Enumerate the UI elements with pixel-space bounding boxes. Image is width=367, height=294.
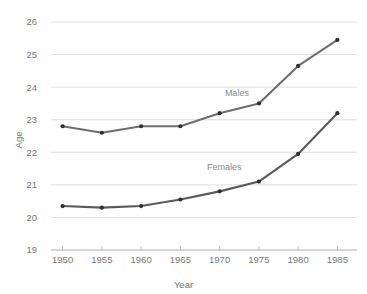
series-lines-group — [63, 40, 338, 208]
data-point-males-1950 — [61, 124, 65, 128]
series-line-males — [63, 40, 338, 133]
data-point-males-1970 — [218, 111, 222, 115]
series-annotation-females: Females — [207, 162, 242, 172]
data-point-males-1955 — [100, 131, 104, 135]
series-annotations-group: MalesFemales — [207, 88, 249, 171]
data-point-females-1975 — [257, 180, 261, 184]
series-annotation-males: Males — [225, 88, 250, 98]
line-chart: 1920212223242526 19501955196019651970197… — [0, 0, 367, 294]
y-tick-label: 25 — [26, 49, 37, 60]
data-point-females-1960 — [139, 204, 143, 208]
y-tick-labels-group: 1920212223242526 — [26, 16, 37, 255]
y-tick-label: 26 — [26, 16, 37, 27]
data-point-females-1965 — [178, 197, 182, 201]
data-point-females-1955 — [100, 206, 104, 210]
x-axis-title: Year — [174, 279, 193, 290]
x-tick-labels-group: 19501955196019651970197519801985 — [52, 254, 348, 265]
y-tick-label: 23 — [26, 114, 37, 125]
data-point-males-1985 — [335, 38, 339, 42]
chart-canvas: 1920212223242526 19501955196019651970197… — [0, 0, 367, 294]
x-tick-label: 1975 — [248, 254, 269, 265]
y-tick-label: 24 — [26, 82, 37, 93]
data-point-females-1950 — [61, 204, 65, 208]
x-tick-label: 1955 — [91, 254, 112, 265]
data-point-females-1985 — [335, 111, 339, 115]
series-line-females — [63, 113, 338, 207]
y-axis-title: Age — [13, 132, 24, 149]
data-point-males-1980 — [296, 64, 300, 68]
y-tick-label: 21 — [26, 179, 37, 190]
x-tick-label: 1980 — [288, 254, 309, 265]
y-tick-label: 22 — [26, 147, 37, 158]
axes-group — [51, 246, 357, 250]
data-point-females-1970 — [218, 189, 222, 193]
series-points-group — [61, 38, 340, 210]
x-tick-label: 1960 — [131, 254, 152, 265]
y-tick-label: 19 — [26, 244, 37, 255]
x-tick-label: 1965 — [170, 254, 191, 265]
x-tick-label: 1950 — [52, 254, 73, 265]
data-point-males-1960 — [139, 124, 143, 128]
x-tick-label: 1970 — [209, 254, 230, 265]
data-point-males-1975 — [257, 101, 261, 105]
x-tick-label: 1985 — [327, 254, 348, 265]
data-point-males-1965 — [178, 124, 182, 128]
data-point-females-1980 — [296, 152, 300, 156]
y-tick-label: 20 — [26, 212, 37, 223]
